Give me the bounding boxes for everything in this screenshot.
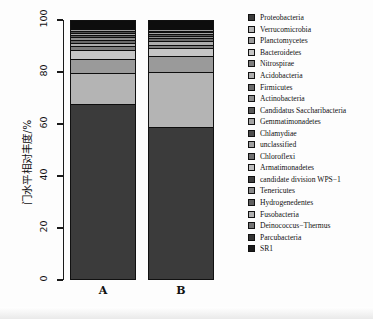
x-tick-label-B: B — [148, 284, 214, 297]
legend-swatch-icon — [248, 164, 255, 171]
legend-item[interactable]: Armatimonadetes — [248, 162, 373, 174]
bar-segment[interactable] — [149, 49, 213, 57]
bar-segment[interactable] — [71, 51, 135, 60]
y-tick-label: 60 — [38, 110, 49, 136]
legend-label: Planctomycetes — [260, 36, 308, 45]
y-tick-label: 100 — [38, 6, 49, 32]
legend-label: Chlamydiae — [260, 129, 297, 138]
legend-label: SR1 — [260, 244, 273, 253]
y-tick-label: 20 — [38, 214, 49, 240]
legend-swatch-icon — [248, 118, 255, 125]
bar-segment[interactable] — [149, 73, 213, 128]
legend-item[interactable]: Actinobacteria — [248, 93, 373, 105]
chart-figure: 门水平相对丰度/% 020406080100 A B Proteobacteri… — [0, 0, 373, 319]
legend-label: Acidobacteria — [260, 71, 303, 80]
legend-label: Verrucomicrobia — [260, 25, 311, 34]
legend-swatch-icon — [248, 222, 255, 229]
legend-label: Chloroflexi — [260, 152, 295, 161]
legend-item[interactable]: Nitrospirae — [248, 58, 373, 70]
legend-label: Parcubacteria — [260, 233, 301, 242]
legend-label: unclassified — [260, 140, 296, 149]
scan-artifact-strip — [0, 307, 373, 319]
y-tick-mark — [57, 19, 63, 20]
legend-swatch-icon — [248, 176, 255, 183]
bar-segment[interactable] — [71, 60, 135, 74]
legend-swatch-icon — [248, 72, 255, 79]
y-tick-label: 0 — [38, 266, 49, 292]
y-tick-mark — [57, 123, 63, 124]
legend-item[interactable]: candidate division WPS−1 — [248, 174, 373, 186]
y-tick-label: 40 — [38, 162, 49, 188]
legend-label: Hydrogenedentes — [260, 198, 313, 207]
legend-swatch-icon — [248, 141, 255, 148]
legend-swatch-icon — [248, 95, 255, 102]
legend-swatch-icon — [248, 60, 255, 67]
legend-label: Firmicutes — [260, 83, 292, 92]
legend-item[interactable]: Candidatus Saccharibacteria — [248, 104, 373, 116]
legend-item[interactable]: Gemmatimonadetes — [248, 116, 373, 128]
legend-label: Candidatus Saccharibacteria — [260, 106, 346, 115]
legend-swatch-icon — [248, 153, 255, 160]
y-tick-mark — [57, 175, 63, 176]
legend-item[interactable]: Deinococcus−Thermus — [248, 220, 373, 232]
legend-item[interactable]: Verrucomicrobia — [248, 24, 373, 36]
legend-item[interactable]: Parcubacteria — [248, 231, 373, 243]
y-tick-mark — [57, 279, 63, 280]
y-tick-mark — [57, 71, 63, 72]
legend-item[interactable]: Tenericutes — [248, 185, 373, 197]
bar-segment[interactable] — [149, 128, 213, 279]
legend-label: Armatimonadetes — [260, 163, 314, 172]
legend-item[interactable]: Proteobacteria — [248, 12, 373, 24]
legend-swatch-icon — [248, 211, 255, 218]
x-tick-label-A: A — [70, 284, 136, 297]
legend-label: Bacteroidetes — [260, 48, 301, 57]
legend-label: Proteobacteria — [260, 13, 304, 22]
legend-item[interactable]: Chloroflexi — [248, 151, 373, 163]
legend-label: Gemmatimonadetes — [260, 117, 321, 126]
legend-item[interactable]: unclassified — [248, 139, 373, 151]
legend-item[interactable]: Planctomycetes — [248, 35, 373, 47]
legend-label: Actinobacteria — [260, 94, 305, 103]
y-tick-label: 80 — [38, 58, 49, 84]
legend-label: Tenericutes — [260, 186, 295, 195]
legend-item[interactable]: Firmicutes — [248, 81, 373, 93]
legend-item[interactable]: SR1 — [248, 243, 373, 255]
bar-segment[interactable] — [71, 105, 135, 279]
legend-swatch-icon — [248, 187, 255, 194]
legend-swatch-icon — [248, 14, 255, 21]
legend-swatch-icon — [248, 37, 255, 44]
legend-item[interactable]: Chlamydiae — [248, 127, 373, 139]
legend-swatch-icon — [248, 130, 255, 137]
legend-swatch-icon — [248, 107, 255, 114]
legend-swatch-icon — [248, 245, 255, 252]
legend-swatch-icon — [248, 49, 255, 56]
bar-segment[interactable] — [71, 74, 135, 106]
legend-swatch-icon — [248, 234, 255, 241]
legend-label: candidate division WPS−1 — [260, 175, 341, 184]
legend-swatch-icon — [248, 199, 255, 206]
legend-item[interactable]: Acidobacteria — [248, 70, 373, 82]
stacked-bar-B[interactable] — [148, 20, 214, 280]
legend-item[interactable]: Hydrogenedentes — [248, 197, 373, 209]
legend-label: Deinococcus−Thermus — [260, 221, 331, 230]
legend-swatch-icon — [248, 84, 255, 91]
legend-label: Fusobacteria — [260, 210, 299, 219]
y-axis-line — [63, 20, 64, 280]
legend-swatch-icon — [248, 26, 255, 33]
bar-segment[interactable] — [149, 57, 213, 73]
plot-area: 门水平相对丰度/% 020406080100 A B — [0, 0, 233, 319]
legend-item[interactable]: Fusobacteria — [248, 208, 373, 220]
y-axis-label: 门水平相对丰度/% — [19, 65, 33, 205]
legend-label: Nitrospirae — [260, 59, 294, 68]
legend: ProteobacteriaVerrucomicrobiaPlanctomyce… — [248, 12, 373, 254]
y-tick-mark — [57, 227, 63, 228]
legend-item[interactable]: Bacteroidetes — [248, 47, 373, 59]
stacked-bar-A[interactable] — [70, 20, 136, 280]
